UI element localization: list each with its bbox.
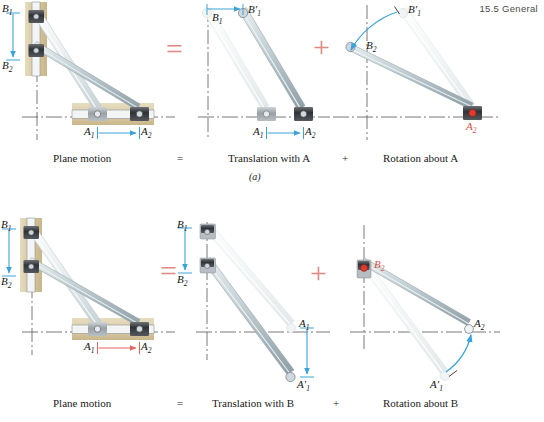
arrow-A1-to-A1prime (300, 328, 314, 377)
panel-plane-motion-a (6, 2, 175, 140)
label-A2-pivot: A2 (466, 121, 476, 135)
label-A1: A1 (84, 126, 94, 140)
caption-translation-b: Translation with B (212, 397, 294, 409)
panel-plane-motion-b (2, 218, 175, 355)
rod-final-position (28, 258, 140, 326)
caption-translation-a: Translation with A (228, 152, 310, 164)
label-B1-prime: B′1 (248, 4, 261, 18)
label-B2: B2 (1, 276, 11, 290)
arrow-B1-to-B2 (178, 228, 192, 273)
label-A2: A2 (305, 126, 315, 140)
label-B1: B1 (212, 12, 222, 26)
label-B1: B1 (177, 219, 187, 233)
label-A2: A2 (141, 341, 151, 355)
arc-arrow-rotation-b (446, 335, 471, 377)
caption-equals-a: = (177, 152, 183, 164)
caption-plane-motion-a: Plane motion (53, 152, 111, 164)
figure-drawing (0, 0, 544, 422)
rod-translated-position (238, 8, 305, 111)
label-A1: A1 (253, 126, 263, 140)
rod-before-rotation (361, 261, 449, 380)
label-B1-prime: B′1 (408, 4, 421, 18)
panel-rotation-about-b (350, 225, 500, 380)
label-A1: A1 (299, 318, 309, 332)
label-A1: A1 (84, 341, 94, 355)
panel-translation-with-b (178, 222, 330, 382)
caption-plane-motion-b: Plane motion (53, 397, 111, 409)
label-B1: B1 (1, 219, 11, 233)
caption-rotation-a: Rotation about A (383, 152, 458, 164)
pivot-marker-B2 (361, 265, 368, 272)
operator-plus-row-a: + (313, 32, 330, 62)
pivot-marker-A2 (469, 109, 476, 116)
label-B2: B2 (366, 40, 376, 54)
operator-equals-row-a: = (166, 34, 183, 64)
caption-equals-b: = (177, 397, 183, 409)
label-B2-pivot: B2 (374, 259, 384, 273)
arrow-B1-to-B2 (2, 229, 16, 276)
rod-before-rotation (398, 8, 475, 109)
operator-equals-row-b: = (160, 256, 177, 286)
label-A1-prime: A′1 (430, 379, 443, 393)
label-B2: B2 (2, 60, 12, 74)
rod-final-position (33, 42, 140, 111)
caption-rotation-b: Rotation about B (383, 397, 458, 409)
caption-plus-b: + (333, 397, 339, 409)
label-B1: B1 (2, 3, 12, 17)
arrow-A1-to-A2 (267, 127, 304, 139)
label-A2: A2 (474, 318, 484, 332)
label-A2: A2 (141, 126, 151, 140)
arrow-B1-to-B2 (6, 13, 20, 60)
caption-plus-a: + (342, 152, 348, 164)
label-A1-prime: A′1 (297, 379, 310, 393)
arrow-A1-to-A2 (98, 342, 140, 354)
panel-rotation-about-a (333, 5, 500, 140)
operator-plus-row-b: + (310, 258, 327, 288)
figure-sub-caption: (a) (249, 171, 261, 182)
label-B2: B2 (177, 274, 187, 288)
arrow-A1-to-A2 (98, 127, 140, 139)
figure-container: 15.5 General (0, 0, 544, 422)
